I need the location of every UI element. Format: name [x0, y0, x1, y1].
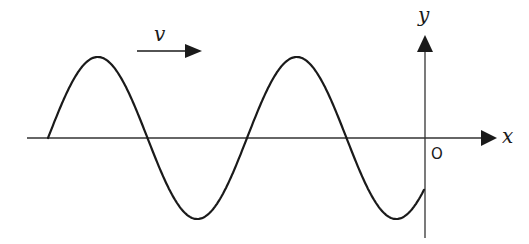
x-axis-arrowhead-icon — [481, 130, 497, 146]
velocity-arrowhead-icon — [185, 44, 202, 58]
y-axis-label: y — [418, 5, 429, 25]
x-axis-label: x — [502, 126, 513, 146]
y-axis-arrowhead-icon — [417, 35, 433, 52]
origin-label: O — [431, 147, 443, 162]
velocity-label: v — [154, 24, 165, 44]
wave-diagram — [0, 0, 529, 244]
